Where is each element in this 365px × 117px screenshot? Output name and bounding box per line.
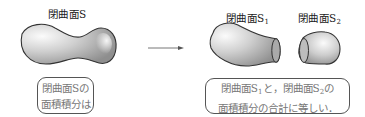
closed-surface-s-shape bbox=[21, 24, 116, 64]
surface-s1-s2-caption-box: 閉曲面S1と，閉曲面S2の 面積積分の合計に等しい． bbox=[205, 78, 350, 114]
surface-s2-subscript: 2 bbox=[336, 18, 341, 26]
closed-surface-s2-shape bbox=[299, 32, 340, 64]
surface-s-caption-box: 閉曲面Sの 面積積分は bbox=[37, 77, 94, 114]
surface-s1-title: 閉曲面S1 bbox=[226, 10, 269, 26]
surface-s2-title: 閉曲面S2 bbox=[298, 10, 341, 26]
caption-line-2: 面積積分の合計に等しい． bbox=[206, 100, 349, 116]
caption-line-1: 閉曲面S1と，閉曲面S2の bbox=[206, 80, 349, 100]
surface-s-title: 閉曲面S bbox=[48, 6, 86, 21]
right-arrow-icon bbox=[148, 46, 184, 50]
surface-s1-title-text: 閉曲面S bbox=[226, 12, 264, 24]
caption-text-a: 閉曲面S bbox=[221, 82, 258, 94]
caption-line-1: 閉曲面Sの bbox=[38, 80, 93, 96]
surface-s-title-text: 閉曲面S bbox=[48, 8, 86, 20]
caption-text-c: の bbox=[324, 82, 334, 94]
surface-s2-title-text: 閉曲面S bbox=[298, 12, 336, 24]
caption-text-b: と，閉曲面S bbox=[263, 82, 320, 94]
surface-s1-subscript: 1 bbox=[264, 18, 269, 26]
caption-line-2: 面積積分は bbox=[38, 96, 93, 112]
closed-surface-s1-shape bbox=[210, 23, 280, 66]
